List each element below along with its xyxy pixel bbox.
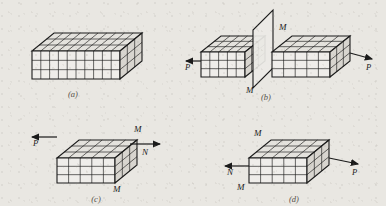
panel-d-arrow-right: P [329,158,358,177]
panel-d-label-p: P [351,167,357,177]
panel-c-label-m-top: M [133,124,142,134]
panel-b-label-p-right: P [365,62,371,72]
panel-c-block [57,140,137,183]
panel-b-caption: (b) [261,92,271,102]
panel-d-label-m-bottom: M [236,182,245,192]
panel-c-label-p: P [32,138,38,148]
panel-c-arrow-left: P [32,137,57,148]
panel-c-label-m-bottom: M [112,184,121,194]
panel-a-block [32,33,142,79]
panel-d-caption: (d) [289,194,299,204]
panel-b-label-m-top: M [278,22,287,32]
panel-b-label-m-bottom: M [245,85,254,95]
panel-d-label-m-top: M [253,128,262,138]
panel-b-arrow-left: P [184,61,201,72]
figure-canvas: (a) [0,0,386,206]
panel-b-right-block [272,36,350,77]
panel-d-block [249,140,329,183]
panel-a-caption: (a) [68,89,78,99]
panel-c: P M N M (c) [32,124,160,204]
panel-d: N P M M (d) [225,128,358,204]
panel-c-caption: (c) [91,194,101,204]
panel-b: M M [184,10,372,102]
panel-b-label-p-left: P [184,62,190,72]
panel-b-arrow-right: P [350,53,372,72]
panel-c-label-n: N [141,147,149,157]
panel-d-arrow-left: N [225,166,249,177]
panel-a: (a) [32,33,142,99]
panel-d-label-n: N [226,167,234,177]
